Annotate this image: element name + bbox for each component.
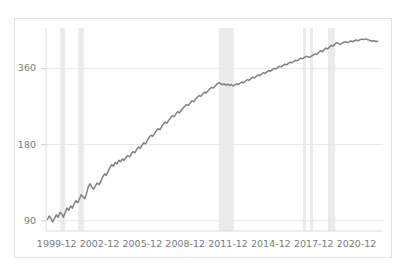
shaded-band <box>60 28 65 231</box>
shaded-band <box>328 28 335 231</box>
x-axis-tick-label: 2002-12 <box>76 238 124 249</box>
x-axis-tick-label: 2005-12 <box>118 238 166 249</box>
x-axis-tick-label: 2008-12 <box>161 238 209 249</box>
y-axis-tick-label: 180 <box>2 139 36 150</box>
x-axis-tick-label: 2011-12 <box>204 238 252 249</box>
shaded-bands-group <box>60 28 335 231</box>
x-axis-tick-label: 2017-12 <box>290 238 338 249</box>
x-axis-tick-label: 2014-12 <box>247 238 295 249</box>
shaded-band <box>219 28 234 231</box>
x-axis-tick-label: 1999-12 <box>33 238 81 249</box>
x-axis-tick-label: 2020-12 <box>333 238 381 249</box>
chart-plot-area <box>0 0 405 274</box>
chart-figure: · · · · 90180360 1999-122002-122005-1220… <box>0 0 405 274</box>
shaded-band <box>310 28 313 231</box>
y-axis-tick-label: 90 <box>2 215 36 226</box>
y-axis-tick-label: 360 <box>2 62 36 73</box>
